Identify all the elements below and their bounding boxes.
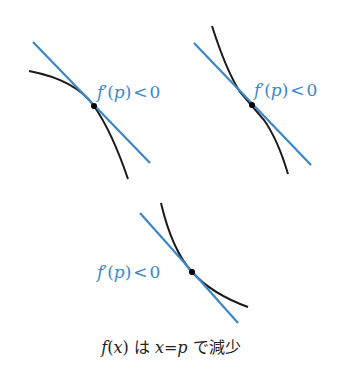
panel-inflection: f′(p)<0 <box>194 26 317 174</box>
tangent-point <box>189 269 195 275</box>
tangent-point <box>91 103 97 109</box>
panel-concave-up: f′(p)<0 <box>95 203 248 323</box>
tangent-point <box>249 102 255 108</box>
derivative-diagram: f′(p)<0 f′(p)<0 f′(p)<0 f(x) は x=p で減少 <box>0 0 342 365</box>
derivative-label: f′(p)<0 <box>252 80 317 100</box>
derivative-label: f′(p)<0 <box>95 262 160 282</box>
panel-concave-down: f′(p)<0 <box>29 42 160 179</box>
caption: f(x) は x=p で減少 <box>100 338 240 357</box>
function-curve <box>161 203 248 307</box>
tangent-line <box>33 42 150 163</box>
derivative-label: f′(p)<0 <box>95 82 160 102</box>
